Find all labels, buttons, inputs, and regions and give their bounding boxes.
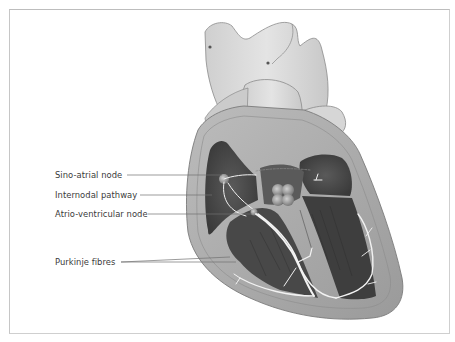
- label-atrio-ventricular-node: Atrio-ventricular node: [55, 209, 148, 219]
- label-internodal-pathway: Internodal pathway: [55, 190, 137, 200]
- label-purkinje-fibres: Purkinje fibres: [55, 257, 115, 267]
- label-sino-atrial-node: Sino-atrial node: [55, 170, 122, 180]
